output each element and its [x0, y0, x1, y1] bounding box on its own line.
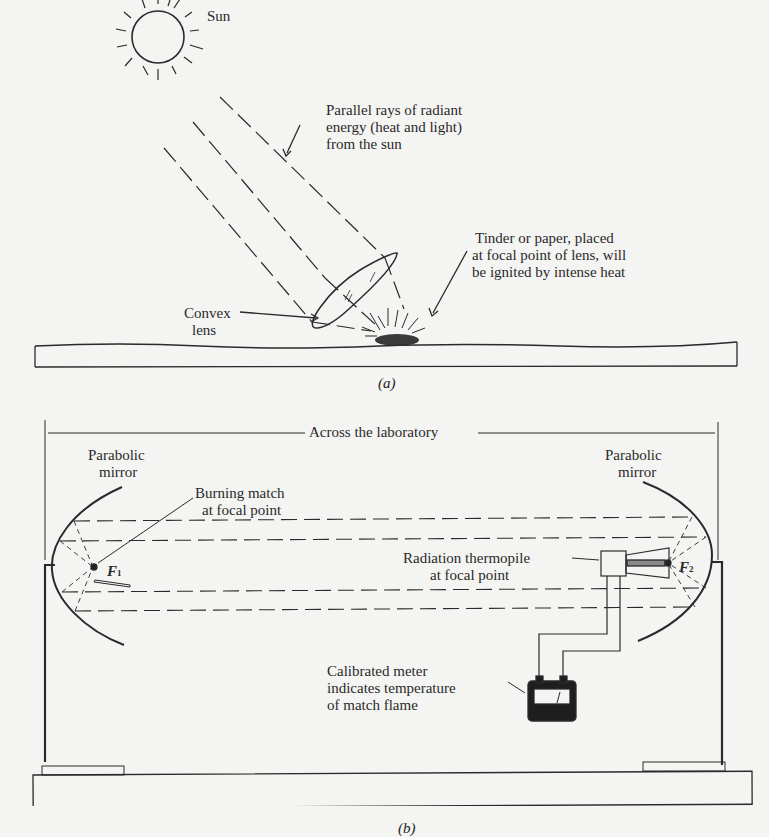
tinder-label-line3: be ignited by intense heat [472, 264, 625, 281]
f1-subscript: 1 [117, 568, 122, 578]
f2-subscript: 2 [689, 564, 694, 574]
f1-letter: F [107, 563, 117, 579]
right-mirror-label-line2: mirror [618, 464, 656, 481]
sun-icon [116, 0, 203, 80]
meter-label-line2: indicates temperature [327, 680, 456, 697]
right-mirror-label-line1: Parabolic [605, 447, 662, 464]
f2-label: F2 [679, 559, 694, 578]
match-label-line2: at focal point [202, 502, 281, 519]
thermopile-box-icon [601, 551, 626, 576]
tinder-fire-icon [362, 308, 425, 336]
lens-label-line2: lens [192, 322, 216, 339]
caption-b: (b) [398, 820, 416, 837]
thermopile-label-line2: at focal point [430, 567, 509, 584]
caption-a: (a) [378, 375, 396, 392]
meter-label-line1: Calibrated meter [327, 663, 427, 680]
left-mirror-label-line1: Parabolic [88, 447, 145, 464]
thermopile-label-line1: Radiation thermopile [403, 550, 530, 567]
rays-label-line2: energy (heat and light) [326, 119, 462, 136]
sun-label: Sun [207, 8, 230, 25]
tinder-label-line2: at focal point of lens, will [472, 247, 626, 264]
lens-label-line1: Convex [184, 305, 231, 322]
calibrated-meter-icon [528, 676, 576, 721]
match-label-line1: Burning match [195, 485, 285, 502]
f2-letter: F [679, 559, 689, 575]
tinder-label-line1: Tinder or paper, placed [475, 230, 614, 247]
convex-lens-icon [312, 253, 397, 328]
across-label: Across the laboratory [309, 424, 438, 441]
left-mirror-label-line2: mirror [99, 464, 137, 481]
rays-label-line1: Parallel rays of radiant [326, 102, 462, 119]
f1-label: F1 [107, 563, 122, 582]
rays-label-line3: from the sun [326, 136, 402, 153]
meter-label-line3: of match flame [327, 697, 418, 714]
